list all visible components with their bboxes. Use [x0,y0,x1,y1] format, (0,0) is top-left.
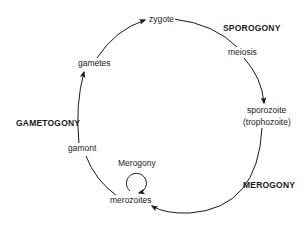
merogony-loop [126,173,146,193]
stage-gametes: gametes [77,58,112,68]
arrow-gamont-to-gametes [78,72,84,144]
arrow-sporozoite-to-merozoites [152,128,262,213]
stage-merozoites: merozoites [109,195,153,205]
stage-zygote: zygote [148,14,175,24]
phase-gametogony: GAMETOGONY [15,118,81,128]
merogony-loop-label: Merogony [117,158,157,168]
phase-merogony: MEROGONY [242,180,296,190]
phase-sporogony: SPOROGONY [222,23,282,33]
arrow-meiosis-to-sporozoite [244,58,264,103]
line-merozoites-to-gamont [86,156,117,196]
arrow-gametes-to-zygote [97,20,145,58]
stage-trophozoite: (trophozoite) [242,117,292,127]
stage-gamont: gamont [67,143,97,153]
stage-sporozoite: sporozoite [246,105,287,115]
stage-meiosis: meiosis [227,47,258,57]
life-cycle-diagram: zygote SPOROGONY meiosis sporozoite (tro… [0,0,304,228]
